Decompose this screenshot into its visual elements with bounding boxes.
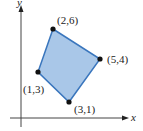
vertex-point-3-1: [66, 99, 71, 104]
coordinate-diagram: y x (2,6) (5,4) (3,1) (1,3): [0, 0, 143, 131]
vertex-point-5-4: [97, 56, 102, 61]
x-axis-arrow-icon: [122, 116, 129, 121]
vertex-label-5-4: (5,4): [107, 53, 128, 66]
vertex-label-2-6: (2,6): [57, 14, 78, 27]
x-axis-label: x: [130, 111, 136, 123]
quadrilateral-region: [38, 29, 100, 102]
vertex-label-1-3: (1,3): [23, 83, 44, 96]
vertex-label-3-1: (3,1): [74, 103, 95, 116]
vertex-point-1-3: [35, 69, 40, 74]
y-axis-label: y: [16, 0, 22, 8]
vertex-point-2-6: [50, 26, 55, 31]
